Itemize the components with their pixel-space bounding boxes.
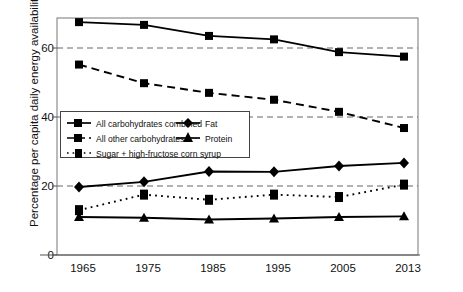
chart-figure: Percentage per capita daily energy avail… [0,0,463,292]
legend-label-all-other-carbohydrates: All other carbohydrates [96,134,184,144]
legend-label-protein: Protein [205,134,232,144]
data-point [140,79,148,87]
data-point [400,53,408,61]
data-point [205,195,213,205]
data-point [335,108,343,116]
data-point [75,205,83,215]
legend-label-all-carbohydrates-combined: All carbohydrates combined [96,119,202,129]
data-point [140,21,148,29]
data-point [205,32,213,40]
legend-label-fat: Fat [205,119,217,129]
data-point [270,96,278,104]
data-point [75,18,83,26]
data-point [400,124,408,132]
legend: All carbohydrates combined All other car… [60,111,250,158]
data-point [270,190,278,200]
data-point [335,192,343,202]
data-point [205,89,213,97]
data-point [140,190,148,200]
data-point [75,61,83,69]
data-point [335,48,343,56]
data-point [270,35,278,43]
data-point [400,180,408,190]
legend-label-sugar-hfcs: Sugar + high-fructose corn syrup [96,149,221,159]
